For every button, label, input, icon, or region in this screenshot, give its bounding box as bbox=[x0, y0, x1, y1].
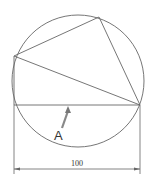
chord-left-right bbox=[14, 56, 140, 105]
chord-left-top bbox=[14, 17, 99, 56]
dimension-arrow-left-icon bbox=[14, 168, 20, 171]
dimension-label: 100 bbox=[71, 159, 83, 168]
geometry-diagram bbox=[0, 0, 153, 184]
pointer-arrow-shaft bbox=[62, 111, 68, 128]
pointer-arrow-head-icon bbox=[65, 106, 71, 113]
point-label: A bbox=[54, 128, 63, 143]
dimension-arrow-right-icon bbox=[134, 168, 140, 171]
